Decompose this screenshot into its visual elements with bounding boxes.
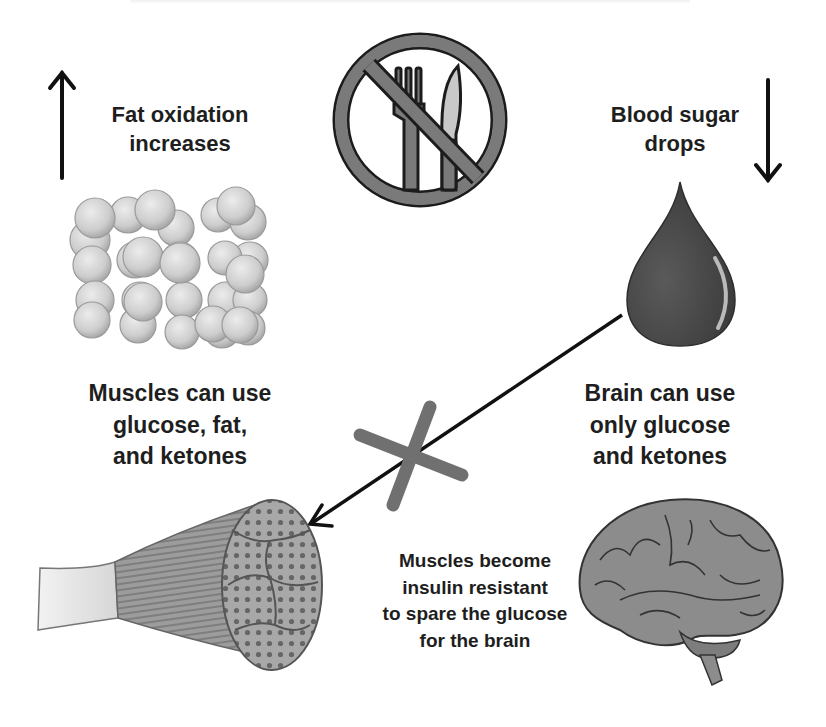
muscles-fuel-label: Muscles can use glucose, fat, and ketone… [50, 378, 310, 473]
muscles-fuel-line-1: Muscles can use [50, 378, 310, 410]
insulin-resistance-line-2: insulin resistant [355, 575, 595, 602]
x-mark-icon [360, 407, 462, 505]
insulin-resistance-label: Muscles become insulin resistant to spar… [355, 548, 595, 654]
fat-oxidation-line-1: Fat oxidation [80, 100, 280, 129]
muscles-fuel-line-2: glucose, fat, [50, 410, 310, 442]
brain-fuel-line-1: Brain can use [560, 378, 760, 410]
no-eating-icon [334, 34, 506, 206]
insulin-resistance-line-4: for the brain [355, 628, 595, 655]
muscles-fuel-line-3: and ketones [50, 441, 310, 473]
insulin-resistance-line-3: to spare the glucose [355, 601, 595, 628]
arrow-up-icon [50, 73, 74, 178]
blood-sugar-line-1: Blood sugar [590, 100, 760, 129]
blood-sugar-line-2: drops [590, 129, 760, 158]
blood-drop-icon [627, 182, 735, 346]
fat-oxidation-label: Fat oxidation increases [80, 100, 280, 158]
blood-sugar-label: Blood sugar drops [590, 100, 760, 158]
brain-fuel-line-3: and ketones [560, 441, 760, 473]
fat-cells-icon [70, 187, 268, 349]
insulin-resistance-line-1: Muscles become [355, 548, 595, 575]
brain-fuel-line-2: only glucose [560, 410, 760, 442]
fat-oxidation-line-2: increases [80, 129, 280, 158]
brain-icon [580, 499, 783, 685]
muscle-fiber-icon [38, 500, 322, 670]
brain-fuel-label: Brain can use only glucose and ketones [560, 378, 760, 473]
